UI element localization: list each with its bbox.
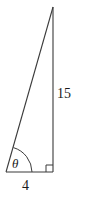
right-angle-marker-icon xyxy=(46,165,53,172)
base-side-label: 4 xyxy=(22,179,29,193)
vertical-side-label: 15 xyxy=(57,87,71,101)
geometry-figure: 15 4 θ xyxy=(0,0,86,198)
hypotenuse-line xyxy=(6,7,53,172)
angle-theta-label: θ xyxy=(12,157,18,170)
